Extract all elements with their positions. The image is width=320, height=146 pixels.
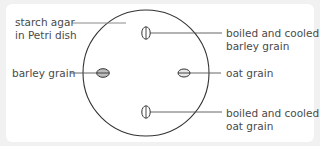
label-boiled-barley-grain: boiled and cooled barley grain	[226, 27, 319, 53]
label-starch-agar-line2: in Petri dish	[15, 29, 68, 42]
label-oat-grain: oat grain	[226, 67, 273, 80]
label-starch-agar: starch agar in Petri dish	[15, 16, 68, 42]
barley-grain-icon	[97, 69, 110, 78]
label-boiled-barley-line1: boiled and cooled	[226, 27, 319, 40]
label-boiled-oat-line2: oat grain	[226, 120, 319, 133]
boiled-oat-grain-icon	[142, 106, 150, 118]
label-starch-agar-line1: starch agar	[15, 16, 68, 29]
label-boiled-barley-line2: barley grain	[226, 40, 319, 53]
boiled-barley-grain-icon	[142, 27, 150, 39]
label-boiled-oat-grain: boiled and cooled oat grain	[226, 107, 319, 133]
label-boiled-oat-line1: boiled and cooled	[226, 107, 319, 120]
label-barley-grain: barley grain	[12, 67, 75, 80]
oat-grain-icon	[178, 69, 190, 77]
